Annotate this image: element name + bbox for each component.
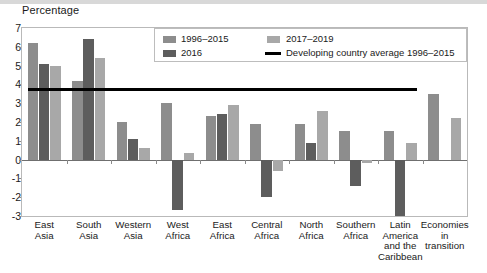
x-tick-mark (67, 160, 68, 164)
bar (273, 160, 284, 171)
bar (395, 160, 406, 216)
y-axis-title: Percentage (22, 4, 79, 16)
developing-country-average-line (28, 88, 417, 91)
legend-swatch (163, 50, 176, 57)
x-tick-mark (378, 160, 379, 164)
bar (306, 143, 317, 160)
bar (362, 160, 373, 164)
x-tick-mark (111, 160, 112, 164)
bar (139, 148, 150, 159)
x-axis-category-label: Economiesintransition (417, 220, 474, 252)
bar (72, 81, 83, 160)
bar (350, 160, 361, 186)
bar (161, 103, 172, 159)
x-axis-labels: EastAsiaSouthAsiaWesternAsiaWestAfricaEa… (22, 220, 467, 273)
legend-label: 2016 (181, 48, 202, 58)
bar (95, 58, 106, 160)
x-label-line: transition (417, 241, 474, 252)
bar (295, 124, 306, 160)
bar (50, 66, 61, 160)
bar (428, 94, 439, 160)
bar (28, 43, 39, 160)
bar (206, 116, 217, 159)
bar (317, 111, 328, 160)
bar (83, 39, 94, 159)
x-label-line: Economies (417, 220, 474, 231)
bar-group (72, 28, 105, 216)
bar (117, 122, 128, 160)
bar (128, 139, 139, 160)
bar (339, 131, 350, 159)
legend-swatch (163, 36, 176, 43)
bar (217, 114, 228, 159)
x-tick-mark (156, 160, 157, 164)
bar (184, 153, 195, 160)
bar (39, 64, 50, 160)
legend-line-marker (265, 52, 281, 55)
bar (172, 160, 183, 211)
bar (261, 160, 272, 198)
legend-label: 1996–2015 (181, 34, 229, 44)
bar (228, 105, 239, 160)
y-tick-label: 7 (5, 23, 21, 33)
x-tick-mark (289, 160, 290, 164)
bar (406, 143, 417, 160)
bar (451, 118, 462, 159)
x-label-line: Caribbean (372, 252, 429, 263)
legend-swatch (267, 36, 280, 43)
bar (250, 124, 261, 160)
bar (384, 131, 395, 159)
chart-legend: 1996–20152017–20192016Developing country… (154, 28, 467, 62)
legend-label: Developing country average 1996–2015 (286, 48, 455, 58)
x-tick-mark (334, 160, 335, 164)
legend-label: 2017–2019 (286, 34, 334, 44)
x-tick-mark (200, 160, 201, 164)
x-tick-mark (423, 160, 424, 164)
bar-group (117, 28, 150, 216)
bar-group (28, 28, 61, 216)
x-tick-mark (245, 160, 246, 164)
